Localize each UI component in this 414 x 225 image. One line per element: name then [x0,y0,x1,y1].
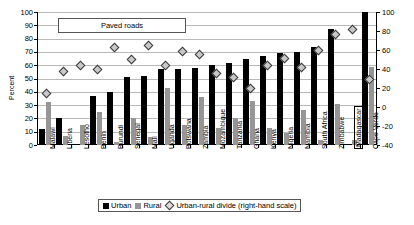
x-axis-label: Mozambique [219,109,226,149]
y-tick-label: 20 [14,114,33,123]
urban-swatch-icon [103,203,109,209]
paved-roads-chart: Percent 1009080706050403020100 100806040… [0,0,414,225]
bar-urban [141,76,147,145]
y2-tick-label: 100 [382,8,395,17]
x-axis-label: Kenya [270,129,277,149]
legend-label-urban: Urban [111,201,131,210]
bar-urban [209,65,215,145]
legend-item-urban: Urban [103,201,131,210]
x-axis-label: Cape Verde [372,112,379,149]
legend-item-divide: Urban-rural divide (right-hand scale) [165,201,296,210]
bar-urban [277,53,283,145]
bar-urban [311,47,317,145]
y-tick-mark [34,92,37,93]
y-tick-mark [34,145,37,146]
y-tick-mark [34,132,37,133]
y-tick-mark [34,12,37,13]
bar-urban [90,96,96,145]
x-axis-label: Tanzania [236,121,243,149]
bar-urban [107,92,113,145]
x-axis-label: Liberia [66,128,73,149]
y-tick-label: 10 [14,127,33,136]
diamond-marker-icon [165,201,175,211]
legend-label-divide: Urban-rural divide (right-hand scale) [176,201,296,210]
y2-tick-label: 20 [382,84,390,93]
x-axis-label: Uganda [168,124,175,149]
legend-label-rural: Rural [143,201,161,210]
y-tick-label: 90 [14,21,33,30]
y-tick-label: 100 [14,8,33,17]
bar-urban [243,59,249,145]
y2-tick-mark [377,12,380,13]
chart-title-box: Paved roads [58,18,186,33]
legend-item-rural: Rural [135,201,161,210]
y-tick-label: 60 [14,61,33,70]
gridline [38,79,376,80]
y2-tick-label: 0 [382,103,386,112]
gridline [38,52,376,53]
x-axis-label: Nigeria [287,127,294,149]
x-axis-label: Senegal [134,123,141,149]
bar-urban [39,129,45,145]
x-axis-label: Benin [100,131,107,149]
bar-urban [328,29,334,145]
gridline [38,65,376,66]
x-axis-label: Botswana [185,118,192,149]
y2-tick-mark [377,69,380,70]
chart-legend: Urban Rural Urban-rural divide (right-ha… [98,199,301,212]
x-axis-label: Madagascar [355,106,362,149]
y-tick-mark [34,79,37,80]
y-tick-label: 80 [14,34,33,43]
y-tick-label: 0 [14,141,33,150]
y-tick-label: 30 [14,101,33,110]
y-tick-mark [34,105,37,106]
x-axis-label: Zimbabwe [338,117,345,149]
y-tick-label: 70 [14,47,33,56]
bar-urban [56,118,62,145]
x-axis-label: Ghana [253,128,260,149]
x-axis-label: Zambia [202,126,209,149]
bar-urban [158,69,164,145]
y2-tick-mark [377,50,380,51]
bar-urban [260,56,266,145]
y2-tick-mark [377,88,380,89]
x-axis-label: South Africa [321,111,328,149]
y-tick-label: 50 [14,74,33,83]
gridline [38,12,376,13]
y-tick-mark [34,52,37,53]
y2-tick-mark [377,107,380,108]
y2-tick-label: -40 [382,141,393,150]
y-tick-mark [34,118,37,119]
x-axis-label: Mali [151,136,158,149]
gridline [38,39,376,40]
bar-urban [192,68,198,145]
x-axis-label: Burundi [117,125,124,149]
y2-tick-label: 40 [382,65,390,74]
y2-tick-label: 60 [382,46,390,55]
x-axis-label: Namibia [304,123,311,149]
x-axis-label: Malawi [49,127,56,149]
y-tick-mark [34,39,37,40]
bar-urban [124,77,130,145]
bar-urban [175,69,181,145]
y2-tick-mark [377,31,380,32]
y-tick-mark [34,25,37,26]
x-axis-label: Lesotho [83,124,90,149]
gridline [38,92,376,93]
rural-swatch-icon [135,203,141,209]
y-tick-mark [34,65,37,66]
y-tick-label: 40 [14,87,33,96]
y2-tick-label: 80 [382,27,390,36]
gridline [38,105,376,106]
y2-tick-label: -20 [382,122,393,131]
